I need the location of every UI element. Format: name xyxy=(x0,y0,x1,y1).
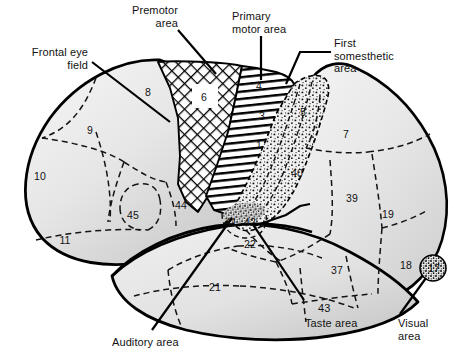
brodmann-area-11: 11 xyxy=(58,234,72,247)
callout-premotor: Premotor area xyxy=(108,4,178,29)
brodmann-area-22: 22 xyxy=(243,238,257,251)
callout-frontal-eye-field: Frontal eye field xyxy=(8,46,88,71)
brodmann-area-10: 10 xyxy=(33,170,47,183)
brodmann-area-21: 21 xyxy=(208,281,222,294)
figure-canvas: Premotor areaPrimary motor areaFirst som… xyxy=(0,0,462,360)
brodmann-area-39: 39 xyxy=(345,192,359,205)
brodmann-area-18: 18 xyxy=(399,259,413,272)
callout-visual: Visual area xyxy=(398,317,446,342)
brodmann-area-17: 17 xyxy=(427,262,441,275)
brodmann-area-1: 1 xyxy=(252,139,266,152)
brodmann-area-40: 40 xyxy=(290,167,304,180)
brodmann-area-5: 5 xyxy=(296,106,310,119)
brodmann-area-19: 19 xyxy=(381,208,395,221)
callout-auditory: Auditory area xyxy=(112,336,202,349)
callout-primary-motor: Primary motor area xyxy=(232,10,312,35)
callout-taste-number: 43 xyxy=(318,302,342,315)
brodmann-area-42: 42 xyxy=(243,216,257,229)
brodmann-area-6: 6 xyxy=(194,90,214,105)
brodmann-area-45: 45 xyxy=(126,209,140,222)
brodmann-area-9: 9 xyxy=(83,124,97,137)
brodmann-area-44: 44 xyxy=(174,199,188,212)
brodmann-area-7: 7 xyxy=(339,128,353,141)
brodmann-area-37: 37 xyxy=(330,264,344,277)
brodmann-area-41: 41 xyxy=(224,216,238,229)
brodmann-area-4: 4 xyxy=(252,80,266,93)
brodmann-area-8: 8 xyxy=(141,86,155,99)
callout-taste: Taste area xyxy=(305,317,375,330)
callout-first-somesthetic: First somesthetic area xyxy=(334,37,414,75)
brodmann-area-3: 3 xyxy=(255,110,269,123)
